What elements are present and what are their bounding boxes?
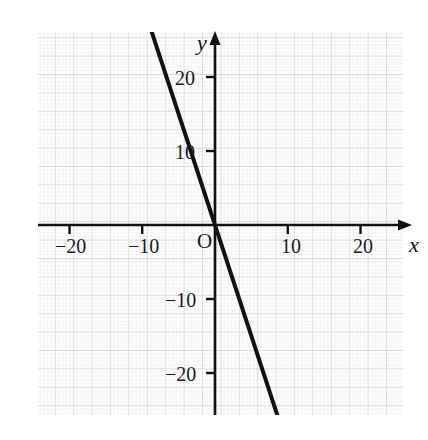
x-axis-label: x bbox=[409, 234, 419, 256]
graph-figure: −20 −10 10 20 20 10 −10 −20 y x O bbox=[0, 0, 428, 440]
coordinate-plane bbox=[0, 0, 428, 440]
x-tick-label-20: 20 bbox=[353, 236, 373, 256]
x-tick-label-10: 10 bbox=[281, 236, 301, 256]
y-tick-label-minus-20: −20 bbox=[165, 364, 196, 384]
origin-label: O bbox=[197, 231, 212, 252]
y-axis-label: y bbox=[197, 32, 207, 54]
x-tick-label-minus-20: −20 bbox=[55, 236, 86, 256]
y-tick-label-10: 10 bbox=[175, 142, 195, 162]
y-tick-label-20: 20 bbox=[175, 68, 195, 88]
y-tick-label-minus-10: −10 bbox=[165, 290, 196, 310]
x-tick-label-minus-10: −10 bbox=[128, 236, 159, 256]
